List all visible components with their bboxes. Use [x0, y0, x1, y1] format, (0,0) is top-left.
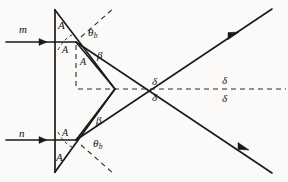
theta-sub-bottom: b [99, 142, 103, 151]
diagram-canvas [0, 0, 288, 182]
label-incident-ray-m: m [19, 24, 27, 35]
arrow-incident-n [39, 137, 47, 144]
label-incidence-angle-top: A [62, 45, 68, 55]
theta-sub-top: b [94, 31, 98, 40]
label-delta-upper-right: δ [222, 75, 227, 86]
normal-top-dashed [81, 8, 114, 37]
label-theta-b-top: θb [88, 27, 97, 39]
label-beta-top: β [97, 50, 102, 61]
label-delta-lower-left: δ [152, 92, 157, 103]
arrow-incident-m [39, 39, 47, 46]
label-incidence-angle-bottom: A [62, 128, 68, 138]
label-apex-angle-top: A [58, 20, 65, 31]
theta-glyph-top: θ [88, 26, 93, 38]
theta-glyph-bottom: θ [93, 137, 98, 149]
label-beta-bottom: β [96, 115, 101, 126]
label-vertical-normal-angle: A [80, 57, 86, 67]
optics-ray-diagram: m n A A A A A θb θb β β δ δ δ δ [0, 0, 288, 182]
label-incident-ray-n: n [19, 128, 25, 139]
label-apex-angle-bottom: A [56, 152, 63, 163]
exit-ray-upper-right [76, 9, 272, 140]
label-delta-upper-left: δ [152, 76, 157, 87]
arrow-exit-lower-right [238, 143, 249, 151]
label-theta-b-bottom: θb [93, 138, 102, 150]
arrow-exit-upper-right [228, 32, 239, 40]
exit-ray-lower-right [76, 42, 272, 173]
label-delta-lower-right: δ [222, 93, 227, 104]
